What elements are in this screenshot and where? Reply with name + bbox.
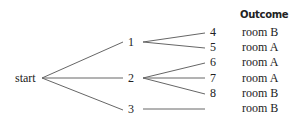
node-3: 3 [128,103,134,115]
edge-1-5 [143,42,205,48]
node-7: 7 [210,72,216,84]
edge-start-3 [42,78,123,110]
node-1: 1 [128,36,134,48]
node-4: 4 [210,26,216,38]
node-6: 6 [210,56,216,68]
outcome-5: room A [242,41,278,53]
outcome-header: Outcome [240,9,288,21]
edge-start-1 [42,42,123,78]
edge-2-8 [143,78,205,94]
edge-1-4 [143,33,205,42]
node-8: 8 [210,87,216,99]
node-start: start [15,72,36,84]
edge-2-6 [143,63,205,78]
outcome-8: room B [242,87,278,99]
outcome-4: room B [242,26,278,38]
outcome-3: room B [242,102,278,114]
node-2: 2 [128,72,134,84]
outcome-7: room A [242,72,278,84]
node-5: 5 [210,41,216,53]
outcome-6: room A [242,56,278,68]
